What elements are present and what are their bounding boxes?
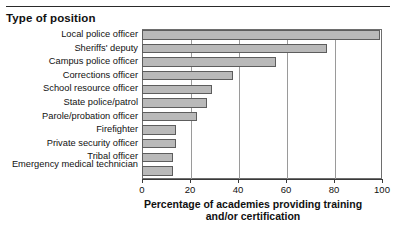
category-label: State police/patrol [0, 97, 138, 107]
bar-row: State police/patrol [0, 97, 394, 111]
category-label: Firefighter [0, 124, 138, 134]
bar-local-police-officer [142, 30, 380, 39]
category-label: Parole/probation officer [0, 111, 138, 121]
category-label: Private security officer [0, 138, 138, 148]
bar-tribal-officer [142, 153, 173, 162]
bar-sheriffs-deputy [142, 44, 327, 53]
category-label: Campus police officer [0, 56, 138, 66]
x-tick-label-20: 20 [185, 184, 196, 195]
category-label: Corrections officer [0, 70, 138, 80]
x-tick-label-100: 100 [374, 184, 390, 195]
cut-off-caption [150, 0, 390, 1]
bar-chart-figure: Type of position Local police officer Sh… [0, 0, 394, 232]
bar-state-police-patrol [142, 98, 207, 107]
category-label: School resource officer [0, 83, 138, 93]
x-tick-60 [286, 179, 287, 183]
x-tick-80 [334, 179, 335, 183]
x-tick-20 [190, 179, 191, 183]
x-axis-title-line-1: Percentage of academies providing traini… [112, 198, 394, 210]
x-tick-label-40: 40 [233, 184, 244, 195]
bar-school-resource-officer [142, 85, 212, 94]
bar-parole-probation-officer [142, 112, 197, 121]
x-axis-title: Percentage of academies providing traini… [112, 198, 394, 223]
bar-row: Local police officer [0, 29, 394, 43]
x-tick-40 [238, 179, 239, 183]
category-label: Local police officer [0, 29, 138, 39]
bar-private-security-officer [142, 139, 176, 148]
bar-corrections-officer [142, 71, 233, 80]
bar-firefighter [142, 125, 176, 134]
bar-row: School resource officer [0, 83, 394, 97]
category-label: Sheriffs' deputy [0, 43, 138, 53]
bar-campus-police-officer [142, 57, 276, 66]
category-label: Emergency medical technician [0, 160, 138, 170]
bar-row: Private security officer [0, 138, 394, 152]
bar-rows: Local police officer Sheriffs' deputy Ca… [0, 29, 394, 179]
bar-row: Corrections officer [0, 70, 394, 84]
group-heading: Type of position [6, 12, 96, 24]
bar-row: Campus police officer [0, 56, 394, 70]
x-tick-label-0: 0 [139, 184, 144, 195]
x-axis-line [142, 179, 382, 180]
x-tick-label-60: 60 [281, 184, 292, 195]
x-tick-0 [142, 179, 143, 183]
bar-row: Sheriffs' deputy [0, 43, 394, 57]
bar-row: Firefighter [0, 124, 394, 138]
x-axis-title-line-2: and/or certification [112, 210, 394, 222]
bar-row: Emergency medical technician [0, 165, 394, 179]
x-tick-label-80: 80 [329, 184, 340, 195]
x-tick-100 [382, 179, 383, 183]
bar-emergency-medical-technician [142, 166, 173, 175]
bar-row: Parole/probation officer [0, 111, 394, 125]
top-divider-rule [6, 6, 390, 7]
